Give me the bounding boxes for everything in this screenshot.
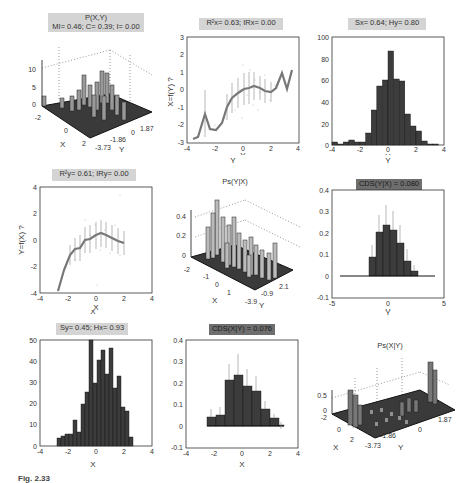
- svg-text:0.4: 0.4: [319, 187, 329, 194]
- svg-text:-2: -2: [212, 145, 218, 152]
- svg-text:-0.1: -0.1: [171, 444, 183, 451]
- svg-text:-2: -2: [357, 146, 363, 153]
- svg-text:0.4: 0.4: [173, 337, 183, 344]
- svg-text:0.3: 0.3: [319, 208, 329, 215]
- svg-text:-1.86: -1.86: [110, 136, 126, 143]
- svg-text:-2: -2: [65, 295, 71, 302]
- svg-text:-2: -2: [184, 266, 190, 273]
- svg-text:4: 4: [33, 184, 37, 191]
- histogram: 100806040 200 -4-2024 Y: [310, 0, 467, 155]
- svg-text:-4: -4: [184, 145, 190, 152]
- svg-text:-0.9: -0.9: [261, 290, 273, 297]
- svg-text:-2: -2: [35, 114, 41, 121]
- svg-text:0.2: 0.2: [173, 380, 183, 387]
- svg-text:3: 3: [180, 34, 184, 41]
- panel-joint-distribution: P(X,Y) MI= 0.46; C= 0.39; I= 0.00 10 5 0…: [0, 0, 155, 155]
- svg-text:20: 20: [29, 400, 37, 407]
- svg-text:-3.73: -3.73: [95, 144, 111, 151]
- svg-text:4: 4: [442, 146, 446, 153]
- svg-text:2: 2: [414, 146, 418, 153]
- svg-text:-2: -2: [65, 448, 71, 455]
- svg-text:80: 80: [321, 56, 329, 63]
- svg-text:-2: -2: [31, 263, 37, 270]
- svg-text:0: 0: [180, 86, 184, 93]
- svg-text:2: 2: [82, 140, 86, 147]
- svg-text:-1: -1: [178, 104, 184, 111]
- panel-histogram-y: Sx= 0.64; Hy= 0.80 100806040 200 -4-2024…: [310, 0, 467, 155]
- svg-text:30: 30: [29, 379, 37, 386]
- svg-text:2: 2: [180, 51, 184, 58]
- svg-text:1.87: 1.87: [140, 125, 154, 132]
- svg-text:-4: -4: [37, 295, 43, 302]
- svg-text:0: 0: [64, 127, 68, 134]
- bar-errorbar-plot: Y 0.40.30.20.1 0-0.1 -505 Y: [310, 155, 467, 310]
- svg-text:1: 1: [227, 289, 231, 296]
- svg-text:-4: -4: [329, 146, 335, 153]
- svg-text:Y: Y: [385, 310, 391, 317]
- panel-regression-y-on-x: R²y= 0.61; IRy= 0.00 420-2-4 -4-2024 X Y…: [0, 155, 155, 310]
- svg-text:4: 4: [150, 448, 154, 455]
- svg-text:0.4: 0.4: [176, 213, 186, 220]
- svg-text:-1.86: -1.86: [380, 432, 396, 439]
- bar3d-plot: 10 5 0 -2 0 2 -3.73 -1.86 0 1.87 X Y: [0, 0, 155, 155]
- svg-text:4: 4: [150, 295, 154, 302]
- svg-text:4: 4: [296, 450, 300, 457]
- svg-text:0: 0: [386, 300, 390, 307]
- svg-text:0: 0: [240, 450, 244, 457]
- svg-text:5: 5: [442, 300, 446, 307]
- svg-text:X: X: [333, 443, 339, 452]
- regression-plot: 3210 -1-2-3 -4-2024 Y X=f(Y) ?: [155, 0, 310, 155]
- svg-text:10: 10: [28, 66, 36, 73]
- svg-text:X: X: [90, 310, 96, 316]
- svg-text:40: 40: [321, 99, 329, 106]
- svg-text:0: 0: [323, 407, 327, 414]
- svg-text:-4: -4: [37, 448, 43, 455]
- svg-text:X: X: [212, 296, 218, 305]
- svg-text:0.2: 0.2: [176, 232, 186, 239]
- svg-text:1.87: 1.87: [438, 416, 452, 423]
- svg-text:0.1: 0.1: [173, 401, 183, 408]
- svg-text:-3.9: -3.9: [245, 298, 257, 305]
- svg-text:10: 10: [29, 421, 37, 428]
- svg-text:-4: -4: [183, 450, 189, 457]
- svg-text:Y: Y: [230, 156, 236, 165]
- svg-text:2: 2: [122, 448, 126, 455]
- svg-text:0: 0: [215, 281, 219, 288]
- panel-conditional-y-given-x: Ps(Y|X) Y 0.4 0.2 0 -2 -1 0 1 X -3.9 -0.…: [155, 155, 310, 310]
- svg-text:2: 2: [268, 450, 272, 457]
- svg-text:X=f(Y) ?: X=f(Y) ?: [166, 77, 175, 107]
- svg-text:5: 5: [32, 84, 36, 91]
- svg-text:0: 0: [32, 101, 36, 108]
- svg-text:X: X: [239, 460, 245, 469]
- svg-text:Y=f(X) ?: Y=f(X) ?: [17, 225, 26, 255]
- svg-text:-3.73: -3.73: [365, 442, 381, 449]
- svg-text:2: 2: [33, 210, 37, 217]
- svg-text:-5: -5: [329, 300, 335, 307]
- svg-text:Y: Y: [398, 443, 404, 452]
- svg-text:50: 50: [29, 337, 37, 344]
- svg-text:0.5: 0.5: [317, 392, 327, 399]
- svg-text:0: 0: [33, 237, 37, 244]
- svg-text:0.3: 0.3: [173, 358, 183, 365]
- panel-cds-y-given-x: CDS(Y|X) = 0.080 Y 0.40.30.20.1 0-0.1 -5…: [310, 155, 467, 310]
- svg-text:40: 40: [29, 358, 37, 365]
- svg-text:0: 0: [325, 273, 329, 280]
- svg-text:2: 2: [269, 145, 273, 152]
- svg-text:X: X: [93, 303, 99, 310]
- svg-text:0: 0: [131, 129, 135, 136]
- svg-text:Y: Y: [259, 301, 265, 310]
- svg-text:0.1: 0.1: [319, 251, 329, 258]
- svg-text:X: X: [60, 140, 66, 149]
- svg-text:2: 2: [350, 436, 354, 443]
- svg-text:Y: Y: [119, 145, 125, 154]
- svg-text:-2: -2: [178, 121, 184, 128]
- svg-text:2: 2: [122, 295, 126, 302]
- bar-errorbar-plot: 0.40.30.20.1 0-0.1 -4-2024 X: [155, 310, 310, 470]
- bar3d-plot: Y 0.5 0 -2 0 2 X -3.73 -1.86 0 1.87 Y: [310, 310, 467, 470]
- svg-text:-2: -2: [321, 414, 327, 421]
- panel-conditional-x-given-y: Ps(X|Y) Y 0.5 0 -2 0 2 X -3.73 -1.86 0 1…: [310, 310, 467, 470]
- svg-text:0: 0: [418, 426, 422, 433]
- svg-text:0: 0: [337, 426, 341, 433]
- svg-text:1: 1: [180, 69, 184, 76]
- svg-text:4: 4: [296, 145, 300, 152]
